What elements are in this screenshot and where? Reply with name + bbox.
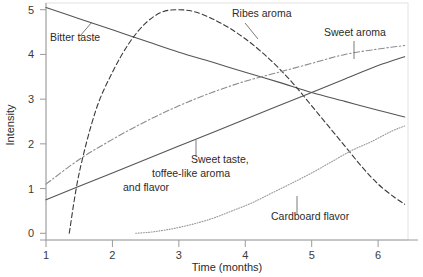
chart-figure: 012345 123456 Bitter tasteRibes aromaSwe… — [0, 0, 423, 277]
y-tick-label-1: 1 — [28, 183, 34, 195]
y-axis-title: Intensity — [4, 104, 16, 145]
annotation-sweet-taste: Sweet taste, — [191, 153, 249, 165]
y-tick-label-2: 2 — [28, 138, 34, 150]
x-tick-label-2: 2 — [109, 249, 115, 261]
series-annotations: Bitter tasteRibes aromaSweet aromaSweet … — [50, 7, 386, 222]
annotation-bitter-taste: Bitter taste — [50, 31, 100, 43]
y-tick-label-4: 4 — [28, 48, 34, 60]
x-axis-tick-labels: 123456 — [43, 249, 381, 261]
x-tick-label-3: 3 — [176, 249, 182, 261]
y-tick-label-3: 3 — [28, 93, 34, 105]
x-axis-ticks — [46, 240, 378, 247]
leader-line-ribes-aroma — [245, 23, 258, 39]
plot-frame — [46, 3, 408, 240]
line-chart-canvas: 012345 123456 Bitter tasteRibes aromaSwe… — [0, 0, 423, 277]
y-axis-tick-labels: 012345 — [28, 4, 34, 240]
y-axis-ticks — [40, 10, 46, 234]
annotation-and-flavor: and flavor — [123, 181, 170, 193]
x-tick-label-5: 5 — [309, 249, 315, 261]
x-tick-label-1: 1 — [43, 249, 49, 261]
x-tick-label-6: 6 — [375, 249, 381, 261]
annotation-ribes-aroma: Ribes aroma — [232, 7, 292, 19]
x-tick-label-4: 4 — [242, 249, 248, 261]
annotation-toffee-like-aroma: toffee-like aroma — [152, 167, 230, 179]
annotation-cardboard-flavor: Cardboard flavor — [271, 210, 350, 222]
y-tick-label-5: 5 — [28, 4, 34, 16]
x-axis-title: Time (months) — [192, 261, 263, 273]
annotation-leader-lines — [80, 22, 354, 214]
annotation-sweet-aroma: Sweet aroma — [324, 26, 386, 38]
y-tick-label-0: 0 — [28, 227, 34, 239]
